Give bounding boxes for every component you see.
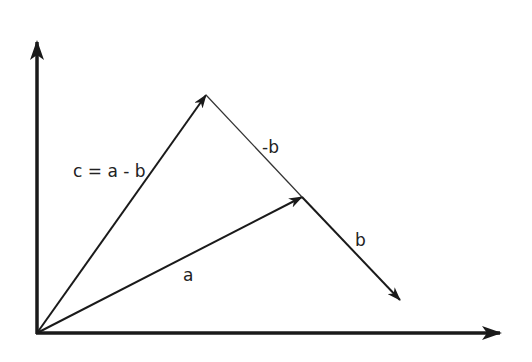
vector-c	[37, 95, 206, 333]
label-c: c = a - b	[73, 161, 146, 181]
vector-a	[37, 197, 302, 333]
label-a: a	[183, 265, 193, 285]
label-b: b	[355, 230, 366, 250]
vector-neg-b	[206, 95, 302, 197]
label-neg-b: -b	[262, 137, 279, 157]
vector-diagram: c = a - b -b b a	[0, 0, 532, 362]
vector-b	[302, 197, 400, 300]
